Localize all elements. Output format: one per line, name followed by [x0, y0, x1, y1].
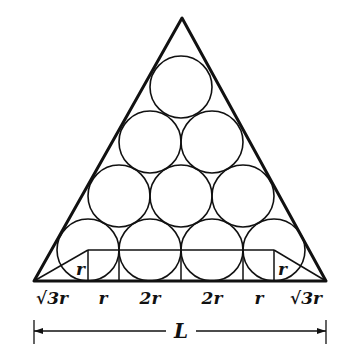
circle-row-4: [150, 56, 212, 118]
segment-label: √3r: [36, 288, 69, 308]
circle: [88, 165, 150, 227]
circle-packing-diagram: r r √3r r 2r 2r r √3r L: [0, 0, 348, 364]
arrow-left-icon: [34, 328, 43, 334]
segment-label: √3r: [290, 288, 323, 308]
inner-label-right: r: [278, 259, 288, 279]
segment-label: r: [99, 288, 109, 308]
segment-label: 2r: [139, 288, 162, 308]
circle-row-3: [119, 111, 243, 173]
arrow-right-icon: [317, 328, 326, 334]
circle-row-2: [88, 165, 274, 227]
circle: [181, 111, 243, 173]
dimension-label: L: [173, 319, 188, 343]
inner-label-left: r: [76, 259, 86, 279]
segment-label: 2r: [201, 288, 224, 308]
circle: [119, 111, 181, 173]
circle: [150, 165, 212, 227]
circle: [150, 56, 212, 118]
circle: [212, 165, 274, 227]
segment-label: r: [255, 288, 265, 308]
